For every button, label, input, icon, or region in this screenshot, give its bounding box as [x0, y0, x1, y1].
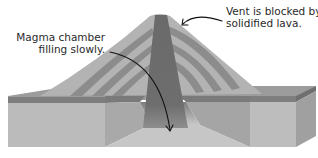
magma-chamber-label: Magma chamber filling slowly.: [16, 31, 105, 55]
ground-front-left: [8, 103, 105, 147]
label-line: Magma chamber: [16, 31, 105, 43]
arrow-vent: [182, 17, 222, 25]
ground-front-right: [250, 102, 296, 147]
label-line: solidified lava.: [226, 17, 318, 29]
vent-label: Vent is blocked by solidified lava.: [226, 5, 318, 29]
label-line: Vent is blocked by: [226, 5, 318, 17]
label-line: filling slowly.: [16, 43, 105, 55]
